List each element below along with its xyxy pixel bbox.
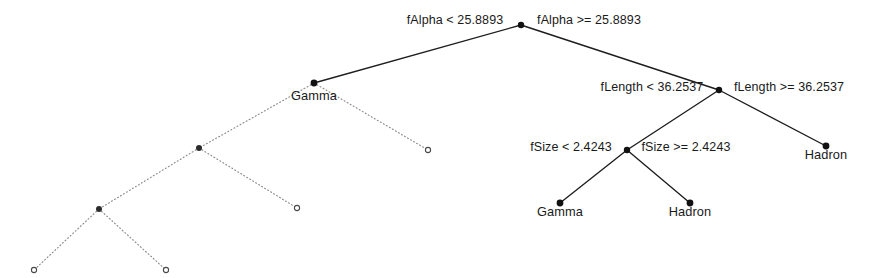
dotted-edge-node2-to-leaf5 — [34, 209, 99, 270]
node-root-falpha — [518, 22, 524, 28]
solid-edge-group — [314, 25, 826, 203]
split-label-flength-left: fLength < 36.2537 — [601, 80, 704, 94]
dotted-edge-group — [34, 83, 428, 270]
node-faded-leaf-6 — [163, 267, 168, 272]
node-split-flength — [716, 87, 722, 93]
dotted-edge-node1-to-node2 — [99, 148, 199, 209]
split-label-flength-right: fLength >= 36.2537 — [734, 80, 844, 94]
edge-flength-to-hadron-right — [719, 90, 826, 146]
node-faded-split-1 — [196, 145, 202, 151]
leaf-label-hadron-length-right: Hadron — [805, 148, 848, 162]
dotted-edge-node1-to-leaf4 — [199, 148, 297, 208]
split-label-fsize-left: fSize < 2.4243 — [530, 140, 612, 154]
faded-node-group — [31, 145, 430, 273]
split-label-root-right: fAlpha >= 25.8893 — [537, 13, 641, 27]
edge-fsize-to-hadron — [627, 150, 690, 203]
main-node-group — [311, 22, 830, 207]
decision-tree-figure: fAlpha < 25.8893 fAlpha >= 25.8893 fLeng… — [0, 0, 879, 278]
edge-fsize-to-gamma — [560, 150, 627, 203]
node-leaf-gamma-left — [311, 80, 318, 87]
split-label-root-left: fAlpha < 25.8893 — [407, 13, 503, 27]
leaf-label-gamma-left: Gamma — [291, 89, 337, 103]
decision-tree-canvas — [0, 0, 879, 278]
node-faded-split-2 — [96, 206, 102, 212]
dotted-edge-node2-to-leaf6 — [99, 209, 166, 270]
node-faded-leaf-4 — [294, 205, 299, 210]
edge-root-to-gamma-left — [314, 25, 521, 83]
leaf-label-hadron-size-right: Hadron — [669, 205, 712, 219]
node-faded-leaf-3 — [425, 147, 430, 152]
split-label-fsize-right: fSize >= 2.4243 — [641, 140, 730, 154]
node-faded-leaf-5 — [31, 267, 36, 272]
node-split-fsize — [624, 147, 630, 153]
leaf-label-gamma-size-left: Gamma — [537, 205, 583, 219]
